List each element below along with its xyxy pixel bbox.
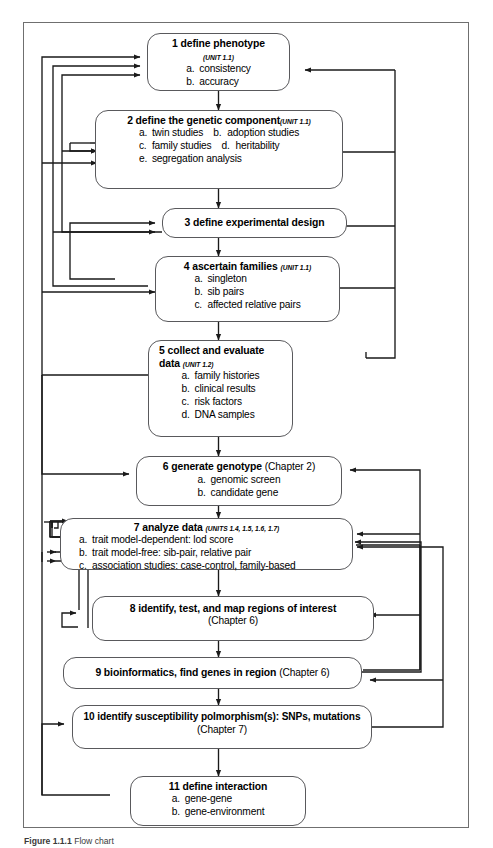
figure-root: 1 define phenotype (UNIT 1.1) a.consiste… (0, 0, 493, 848)
flow-node-7-items: a.trait model-dependent: lod score b.tra… (67, 534, 346, 573)
list-item: a.gene-gene (172, 793, 265, 806)
flow-node-2[interactable]: 2 define the genetic component(UNIT 1.1)… (95, 110, 343, 189)
list-item: b.candidate gene (198, 487, 281, 500)
list-item: c.association studies: case-control, fam… (79, 560, 346, 573)
flow-node-4-items: a.singleton b.sib pairs c.affected relat… (194, 273, 300, 312)
flow-node-6[interactable]: 6 generate genotype (Chapter 2) a.genomi… (136, 456, 342, 506)
flow-node-10-chapter: (Chapter 7) (79, 724, 365, 737)
flow-node-1-title: 1 define phenotype (154, 37, 283, 50)
flow-node-4-title: 4 ascertain families (UNIT 1.1) (162, 260, 333, 273)
list-item: c.risk factors (182, 396, 260, 409)
list-item: b.sib pairs (194, 286, 300, 299)
figure-caption: Figure 1.1.1 Flow chart (24, 836, 114, 846)
list-item: a.trait model-dependent: lod score (79, 534, 346, 547)
list-item: a.family histories (182, 370, 260, 383)
flow-node-10[interactable]: 10 identify susceptibility polmorphism(s… (72, 705, 372, 749)
flow-node-3-title: 3 define experimental design (169, 216, 340, 229)
flow-node-10-title: 10 identify susceptibility polmorphism(s… (79, 711, 365, 724)
flow-node-2-items: a.twin studiesb.adoption studies c.famil… (139, 127, 299, 166)
flow-node-3[interactable]: 3 define experimental design (162, 208, 347, 238)
list-item: a.singleton (194, 273, 300, 286)
flow-node-1[interactable]: 1 define phenotype (UNIT 1.1) a.consiste… (147, 33, 290, 91)
flow-node-11[interactable]: 11 define interaction a.gene-gene b.gene… (130, 776, 306, 826)
flow-node-5[interactable]: 5 collect and evaluate data (UNIT 1.2) a… (148, 340, 293, 437)
list-item: a.genomic screen (198, 474, 281, 487)
list-item: b.clinical results (182, 383, 260, 396)
flow-node-11-items: a.gene-gene b.gene-environment (172, 793, 265, 819)
list-item: b.trait model-free: sib-pair, relative p… (79, 547, 346, 560)
flow-node-1-items: a.consistency b.accuracy (186, 63, 251, 89)
list-item: a.twin studiesb.adoption studies (139, 127, 299, 140)
flow-node-8-chapter: (Chapter 6) (99, 615, 367, 628)
flow-node-1-unit: (UNIT 1.1) (154, 50, 283, 63)
list-item: b.gene-environment (172, 806, 265, 819)
flow-node-5-title-line2: data (UNIT 1.2) (153, 357, 288, 370)
flow-node-2-title: 2 define the genetic component(UNIT 1.1) (102, 114, 336, 127)
flow-node-9[interactable]: 9 bioinformatics, find genes in region (… (63, 657, 362, 689)
list-item: d.DNA samples (182, 409, 260, 422)
flow-node-6-items: a.genomic screen b.candidate gene (198, 474, 281, 500)
flow-node-9-title: 9 bioinformatics, find genes in region (… (70, 666, 355, 680)
flow-node-8-title: 8 identify, test, and map regions of int… (99, 602, 367, 615)
list-item: e.segregation analysis (139, 153, 299, 166)
flow-node-5-title: 5 collect and evaluate (153, 344, 288, 357)
flow-node-4[interactable]: 4 ascertain families (UNIT 1.1) a.single… (155, 256, 340, 322)
list-item: c.affected relative pairs (194, 299, 300, 312)
list-item: a.consistency (186, 63, 251, 76)
list-item: c.family studiesd.heritability (139, 140, 299, 153)
list-item: b.accuracy (186, 76, 251, 89)
flow-node-11-title: 11 define interaction (137, 780, 299, 793)
flow-node-6-title: 6 generate genotype (Chapter 2) (143, 460, 335, 474)
flow-node-7[interactable]: 7 analyze data (UNITS 1.4, 1.5, 1.6, 1.7… (60, 518, 353, 570)
flow-node-5-items: a.family histories b.clinical results c.… (182, 370, 260, 421)
flow-node-7-title: 7 analyze data (UNITS 1.4, 1.5, 1.6, 1.7… (67, 521, 346, 534)
flow-node-8[interactable]: 8 identify, test, and map regions of int… (92, 596, 374, 641)
